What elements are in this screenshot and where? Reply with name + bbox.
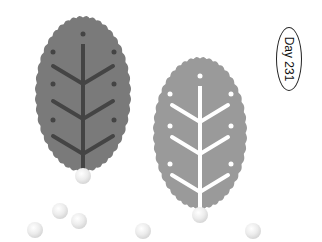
dark-leaf bbox=[35, 16, 131, 172]
ball bbox=[52, 203, 68, 219]
ball bbox=[135, 223, 151, 239]
leaf-dot bbox=[51, 118, 56, 123]
leaf-dot bbox=[168, 162, 173, 167]
leaf-dot bbox=[112, 118, 117, 123]
leaf-dot bbox=[168, 124, 173, 129]
leaf-dot bbox=[168, 92, 173, 97]
leaf-dot bbox=[198, 74, 203, 79]
leaf-dot bbox=[81, 32, 86, 37]
leaf-dot bbox=[229, 162, 234, 167]
leaf-illustration bbox=[0, 0, 322, 242]
leaf-dot bbox=[229, 92, 234, 97]
day-badge: Day 231 bbox=[276, 27, 302, 91]
leaf-dot bbox=[112, 50, 117, 55]
light-leaf bbox=[153, 57, 247, 210]
leaf-dot bbox=[51, 82, 56, 87]
ball bbox=[245, 223, 261, 239]
ball bbox=[75, 168, 91, 184]
ball bbox=[27, 222, 43, 238]
leaf-dot bbox=[229, 124, 234, 129]
leaf-dot bbox=[112, 82, 117, 87]
day-badge-label: Day 231 bbox=[282, 37, 296, 82]
ball bbox=[192, 207, 208, 223]
ball bbox=[71, 213, 87, 229]
leaf-dot bbox=[51, 50, 56, 55]
